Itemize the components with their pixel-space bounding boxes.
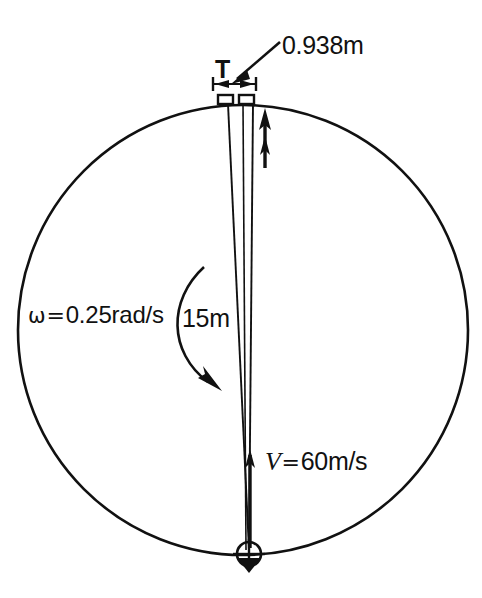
omega-equals-sign: = <box>45 303 65 328</box>
velocity-equals-sign: = <box>281 450 301 475</box>
velocity-symbol: V <box>265 447 281 476</box>
diagram-canvas: 0.938m T ω=0.25rad/s 15m V=60m/s <box>0 0 482 598</box>
radius-label: 15m <box>182 306 230 331</box>
top-distance-label: 0.938m <box>282 33 364 58</box>
angular-velocity-label: ω=0.25rad/s <box>28 303 164 327</box>
omega-symbol: ω <box>28 304 45 328</box>
physics-diagram-svg <box>0 0 482 598</box>
radius-reference-line <box>243 104 246 550</box>
target-box-right <box>239 95 254 104</box>
launcher-base-triangle <box>237 558 261 573</box>
target-box-left <box>218 95 233 104</box>
velocity-value: 60m/s <box>301 447 368 475</box>
target-marker-label: T <box>215 57 230 82</box>
velocity-label: V=60m/s <box>265 449 367 475</box>
dimension-arrowhead-right <box>240 80 254 88</box>
omega-value: 0.25rad/s <box>66 301 164 328</box>
rotation-arrowhead <box>198 366 222 391</box>
